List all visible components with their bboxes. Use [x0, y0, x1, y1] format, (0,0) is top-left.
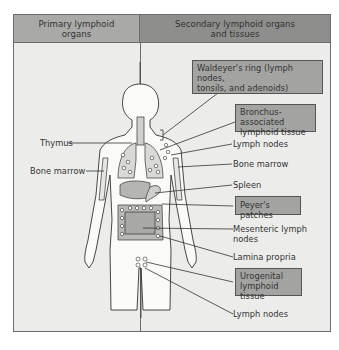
label-text: Mesenteric lymph	[233, 224, 307, 234]
label-text: nodes	[233, 234, 258, 244]
box-peyers-patches: Peyer's patches	[235, 196, 301, 215]
label-lymph-nodes-upper: Lymph nodes	[233, 139, 288, 149]
label-bone-marrow-secondary: Bone marrow	[233, 159, 288, 169]
box-text: Urogenital	[240, 271, 283, 281]
box-text: lymphoid tissue	[240, 127, 306, 137]
small-intestine-icon	[125, 212, 155, 234]
label-bone-marrow-primary: Bone marrow	[30, 166, 85, 176]
label-lamina-propria: Lamina propria	[233, 252, 296, 262]
box-text: tonsils, and adenoids)	[197, 83, 288, 93]
box-waldeyers-ring: Waldeyer's ring (lymph nodes, tonsils, a…	[192, 60, 323, 94]
label-lymph-nodes-lower: Lymph nodes	[233, 309, 288, 319]
label-thymus: Thymus	[40, 138, 73, 148]
label-spleen: Spleen	[233, 180, 261, 190]
label-mesenteric-lymph-nodes: Mesenteric lymph nodes	[233, 224, 307, 244]
box-text: Bronchus-associated	[240, 107, 284, 127]
box-text: Waldeyer's ring (lymph nodes,	[197, 63, 293, 83]
box-text: Peyer's patches	[240, 200, 273, 220]
liver-icon	[120, 181, 150, 199]
trachea-icon	[137, 117, 144, 145]
box-urogenital-lymphoid-tissue: Urogenital lymphoid tissue	[235, 268, 302, 296]
box-bronchus-associated: Bronchus-associated lymphoid tissue	[235, 104, 316, 132]
